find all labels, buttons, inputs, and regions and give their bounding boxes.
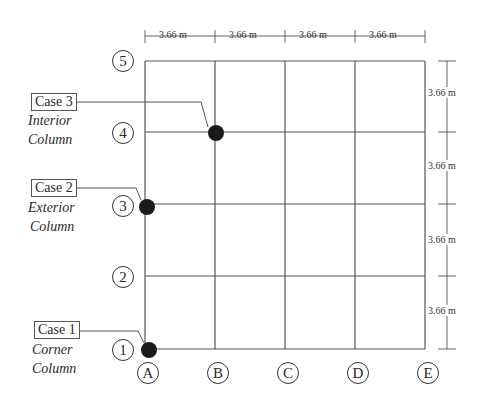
case-3-label: Case 3: [31, 93, 77, 111]
grid-bubble-e: E: [417, 362, 439, 384]
case-2-desc-line1: Exterior: [28, 198, 75, 217]
leader-case-1: [78, 331, 144, 343]
dim-y-2: 3.66 m: [428, 160, 456, 171]
dim-y-1: 3.66 m: [428, 87, 456, 98]
grid-bubble-a: A: [137, 362, 159, 384]
grid-bubble-3: 3: [112, 195, 134, 217]
grid-bubble-b: B: [207, 362, 229, 384]
grid-bubble-4: 4: [112, 122, 134, 144]
case-1-desc-line1: Corner: [32, 340, 72, 359]
dim-x-3: 3.66 m: [299, 29, 327, 40]
column-a1: [141, 342, 157, 358]
column-a3: [139, 199, 155, 215]
dim-x-4: 3.66 m: [369, 29, 397, 40]
case-2-label: Case 2: [31, 179, 77, 197]
case-2-desc-line2: Column: [30, 217, 74, 236]
dim-x-1: 3.66 m: [159, 29, 187, 40]
grid-bubble-5: 5: [112, 50, 134, 72]
dim-y-3: 3.66 m: [428, 234, 456, 245]
column-b4: [208, 125, 224, 141]
leader-case-3: [74, 102, 208, 127]
case-3-desc-line1: Interior: [28, 111, 72, 130]
grid-bubble-d: D: [347, 362, 369, 384]
grid-bubble-2: 2: [112, 266, 134, 288]
case-3-desc-line2: Column: [28, 130, 72, 149]
grid-bubble-1: 1: [112, 339, 134, 361]
dim-y-4: 3.66 m: [428, 305, 456, 316]
case-1-label: Case 1: [34, 321, 80, 339]
case-1-desc-line2: Column: [32, 359, 76, 378]
dim-x-2: 3.66 m: [229, 29, 257, 40]
grid-bubble-c: C: [277, 362, 299, 384]
